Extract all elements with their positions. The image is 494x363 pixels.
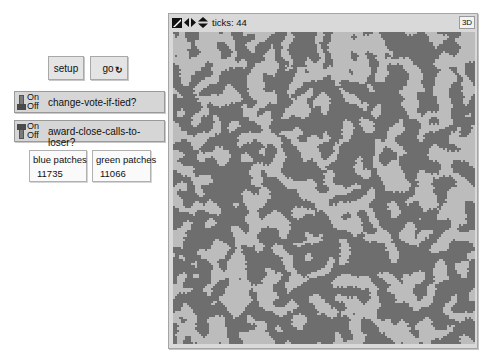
view-toolbar: ticks: 44 3D — [169, 14, 477, 32]
horizontal-wrap-icon[interactable] — [184, 17, 196, 28]
switch-knob[interactable] — [17, 104, 26, 110]
setup-button[interactable]: setup — [48, 56, 84, 80]
go-label: go — [102, 63, 113, 74]
switch-change-vote-if-tied[interactable]: On Off change-vote-if-tied? — [14, 91, 165, 113]
switch-award-close-calls-to-loser[interactable]: On Off award-close-calls-to-loser? — [14, 120, 165, 142]
vertical-wrap-icon[interactable] — [198, 17, 208, 28]
world-view: ticks: 44 3D — [168, 13, 478, 349]
patch-grid[interactable] — [173, 32, 475, 344]
setup-label: setup — [54, 63, 78, 74]
monitor-green-patches: green patches 11066 — [92, 150, 151, 182]
off-label: Off — [27, 102, 39, 111]
edit-icon[interactable] — [172, 17, 182, 28]
switch-name: change-vote-if-tied? — [48, 97, 136, 108]
monitor-label: green patches — [96, 154, 156, 165]
3d-label: 3D — [462, 18, 472, 27]
ticks-counter: ticks: 44 — [212, 17, 247, 28]
forever-icon: ↻ — [115, 66, 123, 75]
monitor-value: 11066 — [100, 168, 126, 179]
switch-name: award-close-calls-to-loser? — [48, 126, 164, 148]
monitor-label: blue patches — [33, 154, 87, 165]
monitor-blue-patches: blue patches 11735 — [29, 150, 87, 182]
go-button[interactable]: go ↻ — [90, 56, 128, 80]
switch-on-off-labels: On Off — [27, 93, 39, 111]
3d-view-button[interactable]: 3D — [459, 16, 475, 29]
off-label: Off — [27, 131, 39, 140]
monitor-value: 11735 — [37, 168, 63, 179]
switch-on-off-labels: On Off — [27, 122, 39, 140]
switch-knob[interactable] — [17, 124, 26, 130]
